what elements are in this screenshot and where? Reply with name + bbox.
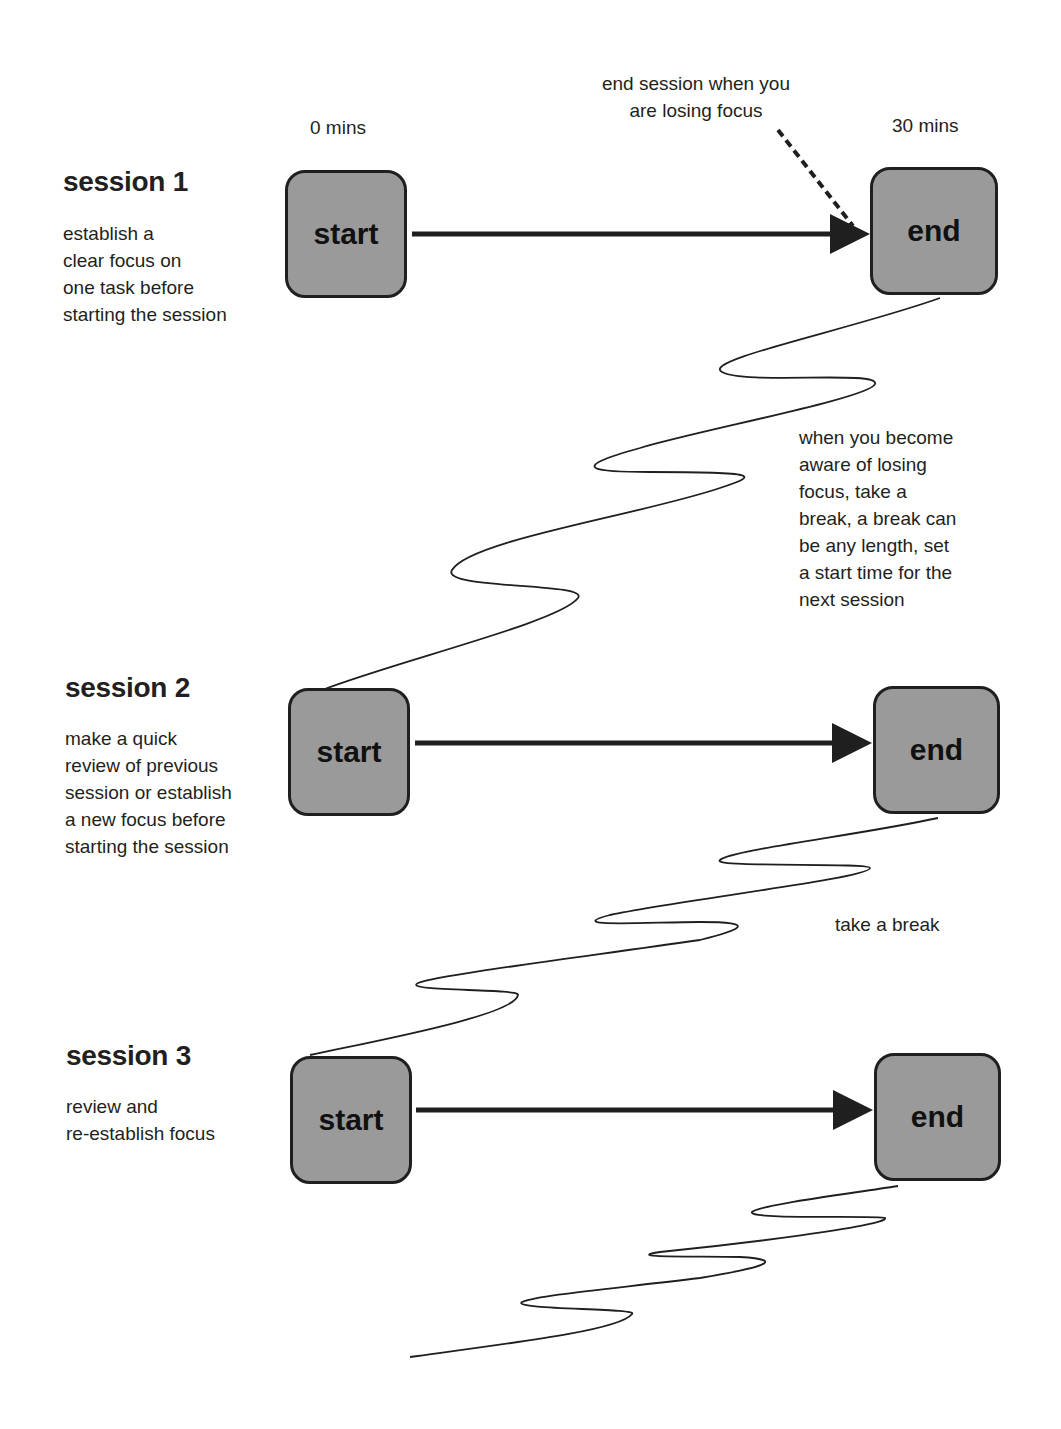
session-1-start-label: start — [313, 217, 378, 251]
time-label-end: 30 mins — [892, 112, 959, 139]
session-3-start-box: start — [290, 1056, 412, 1184]
session-2-start-label: start — [316, 735, 381, 769]
session-3-start-label: start — [318, 1103, 383, 1137]
session-3-end-label: end — [911, 1100, 964, 1134]
session-2-description: make a quick review of previous session … — [65, 725, 232, 860]
session-1-start-box: start — [285, 170, 407, 298]
dashed-pointer — [778, 130, 853, 226]
session-2-end-label: end — [910, 733, 963, 767]
session-2-end-box: end — [873, 686, 1000, 814]
session-2-heading: session 2 — [65, 672, 190, 704]
session-1-heading: session 1 — [63, 166, 188, 198]
session-1-end-label: end — [907, 214, 960, 248]
break-2-text: take a break — [835, 911, 940, 938]
session-3-description: review and re-establish focus — [66, 1093, 215, 1147]
session-3-end-box: end — [874, 1053, 1001, 1181]
session-1-end-box: end — [870, 167, 998, 295]
session-3-heading: session 3 — [66, 1040, 191, 1072]
time-label-start: 0 mins — [310, 114, 366, 141]
session-2-start-box: start — [288, 688, 410, 816]
break-1-text: when you become aware of losing focus, t… — [799, 424, 956, 613]
end-session-annotation: end session when you are losing focus — [590, 70, 802, 124]
session-1-description: establish a clear focus on one task befo… — [63, 220, 227, 328]
break-3-wavy-line — [410, 1186, 898, 1357]
